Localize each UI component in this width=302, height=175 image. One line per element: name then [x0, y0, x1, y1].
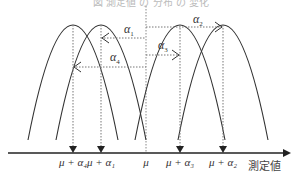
tick-mu-plus-alpha2: μ + α₂	[209, 156, 237, 168]
drop-arrowheads	[69, 146, 227, 153]
label-alpha2: α2	[193, 12, 203, 28]
tick-mu-plus-alpha4: μ + α₄	[59, 156, 87, 168]
distribution-shift-diagram	[0, 0, 302, 175]
x-axis-arrowhead	[283, 149, 291, 157]
drop-lines	[73, 25, 223, 146]
offset-lines	[73, 27, 223, 67]
label-alpha3: α3	[158, 38, 168, 54]
tick-mu: μ	[143, 156, 149, 168]
tick-mu-plus-alpha1: μ + α₁	[87, 156, 115, 168]
x-axis-title: 測定値	[248, 157, 281, 173]
label-alpha1: α1	[124, 22, 134, 38]
label-alpha4: α4	[110, 50, 120, 66]
tick-mu-plus-alpha3: μ + α₃	[166, 156, 194, 168]
